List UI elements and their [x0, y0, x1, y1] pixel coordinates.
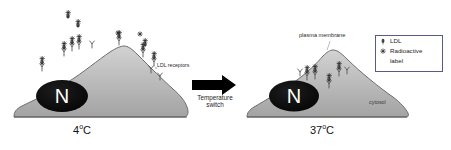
cell-left: N: [14, 46, 188, 117]
nucleus-right-label: N: [287, 85, 301, 107]
legend-spacer: [379, 57, 387, 66]
panel-right-temp-value: 37: [310, 124, 322, 136]
legend-item-radioactive: Radioactive: [376, 46, 442, 56]
plasma-membrane-label: plasma membrane: [299, 33, 345, 39]
plasma-membrane-leader: [327, 41, 330, 50]
cell-left-body: [14, 46, 188, 117]
legend-label-radioactive: Radioactive: [390, 47, 422, 55]
panel-right-temp-unit: C: [326, 124, 334, 136]
panel-left-temp-unit: C: [83, 124, 91, 136]
legend-label-ldl: LDL: [390, 37, 401, 45]
legend-item-ldl: LDL: [376, 36, 442, 46]
right-arrow-icon: [192, 75, 236, 95]
figure-canvas: N: [0, 0, 451, 150]
nucleus-left-label: N: [55, 85, 69, 107]
legend-box: LDL Radioactive label: [375, 35, 443, 72]
temperature-switch-line2: switch: [192, 102, 238, 109]
legend-label-radioactive-line2: label: [390, 57, 403, 65]
temperature-switch-caption: Temperature switch: [192, 95, 238, 108]
panel-right-condition-label: 37oC: [283, 123, 361, 136]
radioactive-asterisk-icon: [379, 47, 387, 56]
ldl-receptors-label: LDL receptors: [157, 63, 189, 68]
ldl-particle-icon: [379, 37, 387, 46]
cytosol-label: cytosol: [369, 100, 386, 106]
legend-item-radioactive-cont: label: [376, 56, 442, 66]
panel-left-condition-label: 4oC: [47, 123, 117, 136]
